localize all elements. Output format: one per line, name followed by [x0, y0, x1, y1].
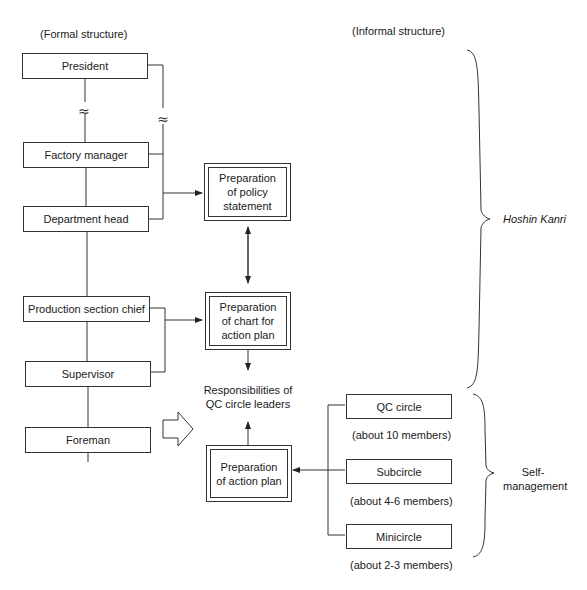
- responsibilities-label: Responsibilities of QC circle leaders: [200, 383, 296, 411]
- chart-for-action-plan-box: Preparation of chart for action plan: [205, 292, 291, 350]
- policy-statement-box: Preparation of policy statement: [204, 163, 291, 221]
- circle-sub: Subcircle: [346, 459, 452, 484]
- policy-statement-label: Preparation of policy statement: [208, 167, 287, 217]
- circle-qc: QC circle: [346, 394, 452, 419]
- informal-structure-header: (Informal structure): [352, 24, 445, 38]
- self-management-label: Self-management: [503, 465, 563, 493]
- circle-mini-size: (about 2-3 members): [350, 558, 453, 572]
- role-foreman: Foreman: [25, 427, 151, 453]
- circle-qc-size: (about 10 members): [352, 428, 451, 442]
- role-production-section-chief: Production section chief: [23, 296, 150, 322]
- formal-structure-header: (Formal structure): [40, 27, 127, 41]
- svg-text:≈: ≈: [78, 103, 90, 119]
- action-plan-box: Preparation of action plan: [206, 445, 292, 502]
- svg-text:≈: ≈: [157, 111, 169, 127]
- hoshin-kanri-label: Hoshin Kanri: [503, 212, 566, 226]
- role-department-head: Department head: [23, 206, 149, 232]
- role-factory-manager: Factory manager: [23, 142, 149, 168]
- action-plan-label: Preparation of action plan: [210, 449, 288, 498]
- chart-for-action-plan-label: Preparation of chart for action plan: [209, 296, 287, 346]
- circle-mini: Minicircle: [346, 524, 452, 549]
- role-president: President: [22, 53, 148, 79]
- role-supervisor: Supervisor: [25, 361, 151, 387]
- circle-sub-size: (about 4-6 members): [350, 494, 453, 508]
- connector-lines: ≈ ≈ ≈: [0, 0, 587, 590]
